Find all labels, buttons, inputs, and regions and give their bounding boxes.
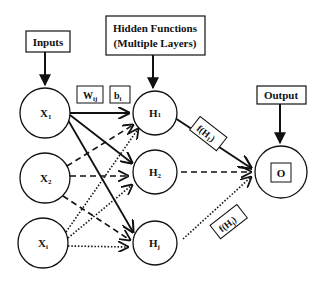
edges-x1-solid — [68, 113, 133, 232]
node-label: X — [40, 107, 48, 119]
hidden-node-hj: Hj — [133, 221, 177, 265]
output-node-label: O — [277, 167, 286, 179]
bias-label-box: bi — [110, 86, 130, 103]
node-subscript: 1 — [48, 113, 52, 121]
edges-x2-dashed — [63, 125, 133, 240]
node-label: X — [40, 172, 48, 184]
hidden-node-h2: H2 — [133, 150, 177, 194]
node-subscript: 1 — [158, 111, 162, 119]
input-node-x2: X2 — [20, 153, 70, 203]
inputs-label-box: Inputs — [26, 31, 70, 52]
hidden-functions-label-line1: Hidden Functions — [113, 22, 198, 34]
weight-label: W — [83, 90, 93, 101]
weight-subscript: ij — [93, 95, 97, 103]
node-subscript: i — [46, 243, 48, 251]
input-node-x1: X1 — [20, 88, 70, 138]
node-subscript: j — [157, 243, 160, 251]
output-label-box: Output — [257, 86, 306, 104]
edges-xi-dotted — [66, 129, 138, 247]
node-subscript: 2 — [158, 172, 162, 180]
node-label: X — [38, 237, 46, 249]
output-node-o: O — [255, 146, 307, 198]
f-h1-label-box: f(H1) — [190, 116, 227, 150]
output-label: Output — [264, 89, 299, 101]
bias-subscript: i — [120, 95, 122, 103]
input-node-xi: Xi — [18, 218, 68, 268]
neural-network-diagram: Inputs Hidden Functions (Multiple Layers… — [0, 0, 318, 285]
hidden-functions-label-line2: (Multiple Layers) — [114, 37, 197, 50]
weight-label-box: Wij — [77, 86, 103, 103]
inputs-label: Inputs — [33, 36, 64, 48]
hidden-functions-label-box: Hidden Functions (Multiple Layers) — [106, 16, 205, 55]
node-subscript: 2 — [48, 178, 52, 186]
hidden-node-h1: H1 — [133, 91, 177, 135]
